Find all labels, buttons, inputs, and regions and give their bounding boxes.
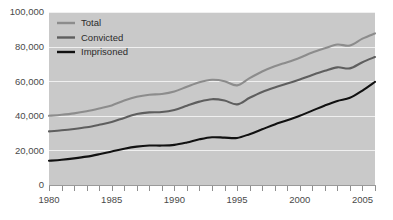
- legend-label-total: Total: [81, 17, 101, 28]
- x-axis-tick-label: 1990: [164, 194, 185, 205]
- x-axis-tick-label: 1995: [227, 194, 248, 205]
- x-axis-tick-label: 1985: [101, 194, 122, 205]
- legend-label-convicted: Convicted: [81, 32, 123, 43]
- x-axis-tick-label: 2005: [352, 194, 373, 205]
- y-axis-tick-label: 80,000: [15, 41, 44, 52]
- x-axis-tick-label: 2000: [289, 194, 310, 205]
- chart-canvas: 020,00040,00060,00080,000100,000 1980198…: [0, 0, 393, 220]
- y-axis-tick-label: 60,000: [15, 76, 44, 87]
- x-axis-tick-label: 1980: [38, 194, 59, 205]
- y-axis-tick-label: 20,000: [15, 145, 44, 156]
- y-axis-tick-label: 100,000: [10, 6, 44, 17]
- y-axis-tick-label: 40,000: [15, 110, 44, 121]
- legend-label-imprisoned: Imprisoned: [81, 46, 128, 57]
- line-chart: 020,00040,00060,00080,000100,000 1980198…: [0, 0, 393, 220]
- y-axis-tick-label: 0: [39, 179, 44, 190]
